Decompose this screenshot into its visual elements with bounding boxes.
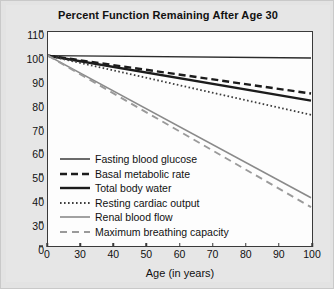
x-axis-tick-mark	[245, 243, 247, 247]
x-axis-tick-mark	[79, 243, 81, 247]
chart-figure: Percent Function Remaining After Age 30 …	[0, 0, 334, 289]
y-axis-tick-mark	[39, 30, 43, 32]
x-axis-tick-label: 50	[141, 248, 153, 260]
legend-line-swatch	[60, 154, 90, 164]
y-axis-tick-mark	[39, 150, 43, 152]
x-axis-tick-mark	[113, 243, 115, 247]
legend-item-label: Maximum breathing capacity	[95, 227, 229, 238]
x-axis-tick-mark	[179, 243, 181, 247]
legend-item: Total body water	[60, 181, 260, 196]
y-axis-tick-mark	[39, 54, 43, 56]
legend-item: Renal blood flow	[60, 210, 260, 225]
chart-legend: Fasting blood glucoseBasal metabolic rat…	[60, 152, 260, 239]
x-axis-tick-mark	[46, 243, 48, 247]
legend-item: Fasting blood glucose	[60, 152, 260, 167]
x-axis-label: Age (in years)	[47, 267, 313, 279]
x-axis-tick-mark	[212, 243, 214, 247]
x-axis-tick-label: 80	[240, 248, 252, 260]
y-axis-tick-mark	[39, 78, 43, 80]
series-line	[48, 56, 311, 58]
legend-item: Basal metabolic rate	[60, 167, 260, 182]
y-axis-tick-mark	[39, 221, 43, 223]
legend-line-swatch	[60, 212, 90, 222]
chart-inner-panel: Percent Function Remaining After Age 30 …	[6, 5, 330, 282]
legend-line-swatch	[60, 169, 90, 179]
x-axis-tick-label: 0	[44, 248, 50, 260]
legend-line-swatch	[60, 183, 90, 193]
legend-item-label: Resting cardiac output	[95, 198, 199, 209]
x-axis-tick-mark	[278, 243, 280, 247]
legend-item-label: Fasting blood glucose	[95, 154, 197, 165]
y-axis-tick-mark	[39, 126, 43, 128]
legend-item: Maximum breathing capacity	[60, 225, 260, 240]
y-axis-tick-mark	[39, 245, 43, 247]
legend-line-swatch	[60, 227, 90, 237]
y-axis-tick-mark	[39, 102, 43, 104]
legend-item: Resting cardiac output	[60, 196, 260, 211]
page-title: Percent Function Remaining After Age 30	[6, 9, 330, 21]
x-axis-tick-label: 60	[174, 248, 186, 260]
x-axis-tick-label: 30	[74, 248, 86, 260]
legend-item-label: Basal metabolic rate	[95, 169, 190, 180]
x-axis-tick-label: 100	[303, 248, 321, 260]
series-line	[48, 56, 311, 115]
series-line	[48, 56, 311, 101]
y-axis-tick-mark	[39, 197, 43, 199]
legend-line-swatch	[60, 198, 90, 208]
x-axis-tick-label: 90	[273, 248, 285, 260]
x-axis-tick-mark	[311, 243, 313, 247]
x-axis-tick-label: 70	[207, 248, 219, 260]
x-axis-tick-label: 40	[107, 248, 119, 260]
x-axis-tick-mark	[146, 243, 148, 247]
legend-item-label: Renal blood flow	[95, 212, 173, 223]
legend-item-label: Total body water	[95, 183, 171, 194]
y-axis-tick-mark	[39, 174, 43, 176]
